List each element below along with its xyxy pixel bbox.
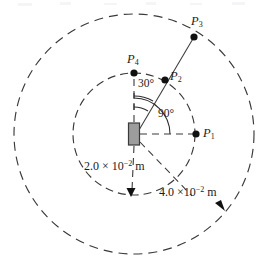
outer-radius-suffix: m xyxy=(204,185,216,199)
inner-radius-label: 2.0 × 10−2 m xyxy=(84,160,145,172)
point-label-p3: P3 xyxy=(191,15,203,28)
point-label-p1-sub: 1 xyxy=(211,132,215,141)
point-label-p3-sub: 3 xyxy=(199,20,203,29)
angle-label-30: 30° xyxy=(138,78,154,90)
inner-radius-suffix: m xyxy=(132,159,144,173)
outer-radius-label: 4.0 ×10−2 m xyxy=(159,186,217,198)
point-label-p4-sub: 4 xyxy=(135,58,139,67)
point-marker-p2 xyxy=(161,76,168,83)
physics-diagram-canvas xyxy=(0,0,260,255)
inner-radius-prefix: 2.0 × 10 xyxy=(84,159,124,173)
angle-arc-30-inner xyxy=(134,107,148,111)
point-marker-p3 xyxy=(190,33,197,40)
bar-magnet xyxy=(129,123,140,145)
point-label-p2-text: P xyxy=(170,69,178,83)
outer-radius-exponent: −2 xyxy=(196,185,205,194)
outer-circle-arrowhead xyxy=(215,200,225,211)
point-label-p4: P4 xyxy=(127,53,139,66)
point-marker-p4 xyxy=(130,69,137,76)
angle-label-90: 90° xyxy=(158,108,174,120)
inner-radius-exponent: −2 xyxy=(124,159,133,168)
point-label-p1: P1 xyxy=(203,127,215,140)
point-label-p3-text: P xyxy=(191,14,199,28)
point-marker-p1 xyxy=(192,130,199,137)
point-label-p4-text: P xyxy=(127,52,135,66)
point-label-p2: P2 xyxy=(170,70,182,83)
outer-radius-prefix: 4.0 ×10 xyxy=(159,185,196,199)
inner-circle-arrowhead xyxy=(127,188,136,197)
point-label-p2-sub: 2 xyxy=(178,75,182,84)
point-label-p1-text: P xyxy=(203,126,211,140)
